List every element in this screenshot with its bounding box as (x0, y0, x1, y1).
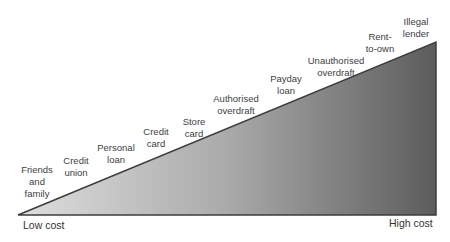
high-cost-label: High cost (389, 217, 433, 229)
item-credit-union: Credit union (56, 155, 96, 179)
item-store-card: Store card (176, 116, 212, 140)
low-cost-label: Low cost (23, 219, 64, 231)
item-credit-card: Credit card (138, 126, 174, 150)
item-personal-loan: Personal loan (91, 142, 141, 166)
item-unauthorised-overdraft: Unauthorised overdraft (298, 55, 374, 79)
item-friends-and-family: Friends and family (14, 164, 60, 200)
item-authorised-overdraft: Authorised overdraft (206, 93, 266, 117)
item-rent-to-own: Rent- to-own (360, 31, 400, 55)
item-illegal-lender: Illegal lender (396, 16, 436, 40)
